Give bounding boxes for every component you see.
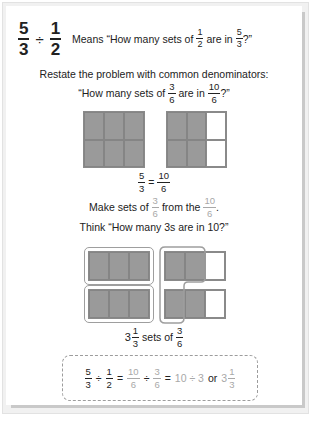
set-group-2 <box>84 285 154 323</box>
result-text: 3 1 3 sets of 3 6 <box>6 326 302 348</box>
restate-heading: Restate the problem with common denomina… <box>6 68 302 80</box>
restate-question: “How many sets of 3 6 are in 10 6 ?” <box>6 82 302 104</box>
fraction-grid-whole <box>83 111 145 168</box>
set-group-1 <box>84 247 154 285</box>
make-sets-text: Make sets of 3 6 from the 10 6 . <box>6 196 302 218</box>
fraction-grid-partial <box>166 111 227 168</box>
lesson-card: 5 3 ÷ 1 2 Means “How many sets of 1 2 ar… <box>6 6 302 405</box>
equivalence-equation: 5 3 = 10 6 <box>6 169 302 193</box>
think-text: Think “How many 3s are in 10?” <box>6 221 302 233</box>
set-group-3-outline <box>156 242 216 328</box>
summary-equation-box: 5 3 ÷ 1 2 = 10 6 ÷ 3 6 = 10 ÷ 3 or 3 1 3 <box>62 355 258 401</box>
meaning-text: Means “How many sets of 1 2 are in 5 3 ?… <box>72 28 252 49</box>
division-expression: 5 3 ÷ 1 2 <box>18 20 61 58</box>
divide-sign: ÷ <box>35 31 43 48</box>
fraction-one-half: 1 2 <box>50 20 61 58</box>
fraction-five-thirds: 5 3 <box>18 20 29 58</box>
